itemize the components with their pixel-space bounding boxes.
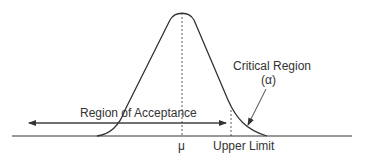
upper-limit-label: Upper Limit bbox=[213, 139, 275, 153]
alpha-label: (α) bbox=[261, 73, 276, 87]
acceptance-label: Region of Acceptance bbox=[80, 106, 197, 120]
critical-pointer-arrow bbox=[248, 89, 266, 125]
distribution-diagram: Region of Acceptance Critical Region (α)… bbox=[0, 0, 365, 159]
mean-label: μ bbox=[178, 139, 185, 153]
critical-region-label: Critical Region bbox=[233, 59, 311, 73]
